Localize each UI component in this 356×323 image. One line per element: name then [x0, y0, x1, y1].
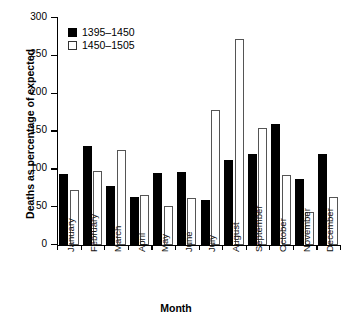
x-axis-label-march: March	[112, 226, 123, 252]
x-axis-label-august: August	[230, 222, 241, 252]
x-tick-mark	[128, 245, 129, 250]
legend-item: 1450–1505	[68, 39, 135, 52]
y-tick-label: 50	[16, 200, 47, 212]
legend-label: 1395–1450	[82, 26, 135, 39]
x-axis-title: Month	[26, 302, 326, 314]
y-tick-label: 200	[16, 86, 47, 98]
x-tick-mark	[222, 245, 223, 250]
x-axis-label-september: September	[253, 206, 264, 252]
x-tick-mark	[175, 245, 176, 250]
legend-swatch-black	[68, 28, 77, 37]
x-axis-label-may: May	[159, 234, 170, 252]
x-tick-mark	[340, 245, 341, 250]
x-tick-mark	[104, 245, 105, 250]
x-axis-label-february: February	[88, 214, 99, 252]
x-tick-mark	[81, 245, 82, 250]
legend-swatch-white	[68, 41, 77, 50]
legend: 1395–14501450–1505	[68, 26, 135, 52]
x-axis-label-november: November	[301, 208, 312, 252]
y-tick-label: 300	[16, 11, 47, 23]
legend-item: 1395–1450	[68, 26, 135, 39]
x-axis-label-june: June	[183, 231, 194, 252]
x-axis-label-april: April	[136, 233, 147, 252]
x-axis-label-january: January	[65, 218, 76, 252]
y-tick-label: 250	[16, 48, 47, 60]
y-tick-label: 100	[16, 162, 47, 174]
y-tick-label: 0	[16, 238, 47, 250]
x-axis-label-july: July	[206, 235, 217, 252]
x-tick-mark	[246, 245, 247, 250]
x-axis-label-december: December	[324, 208, 335, 252]
x-tick-mark	[151, 245, 152, 250]
x-tick-mark	[316, 245, 317, 250]
x-tick-mark	[293, 245, 294, 250]
x-axis-label-october: October	[277, 218, 288, 252]
x-tick-mark	[199, 245, 200, 250]
x-tick-mark	[57, 245, 58, 250]
bar	[211, 110, 220, 245]
y-tick-label: 150	[16, 124, 47, 136]
x-tick-mark	[269, 245, 270, 250]
bar	[235, 39, 244, 245]
legend-label: 1450–1505	[82, 39, 135, 52]
bar-chart: Deaths as percentage of expected 0501001…	[0, 0, 356, 323]
